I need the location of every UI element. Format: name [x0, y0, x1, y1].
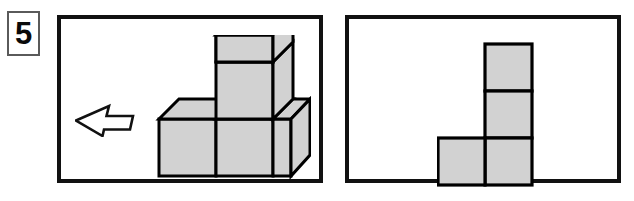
stimulus-panel [57, 15, 323, 183]
cell-bottom-right [485, 138, 532, 185]
isometric-cube-stack-icon [139, 35, 311, 180]
answer-panel-canvas [349, 19, 617, 179]
cell-middle-right [485, 91, 532, 138]
j-tetromino-icon [437, 42, 539, 192]
cell-top-right [485, 44, 532, 91]
answer-panel [345, 15, 621, 183]
cell-bottom-left [438, 138, 485, 185]
question-number-box: 5 [7, 11, 40, 56]
stimulus-panel-canvas [61, 19, 319, 179]
question-number: 5 [15, 18, 32, 49]
right-arrow-outline-icon [75, 103, 137, 137]
